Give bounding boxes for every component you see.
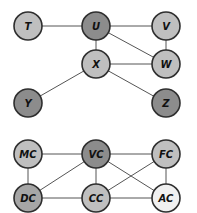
node-fc: FC	[152, 140, 180, 168]
node-label: VC	[88, 149, 104, 160]
nodes-layer: TUVXWYZMCVCFCDCCCAC	[14, 12, 180, 212]
node-x: X	[82, 50, 110, 78]
node-label: W	[160, 59, 172, 70]
node-dc: DC	[14, 184, 42, 212]
node-v: V	[152, 12, 180, 40]
node-label: AC	[158, 193, 174, 204]
node-u: U	[82, 12, 110, 40]
node-y: Y	[14, 89, 42, 117]
node-label: DC	[20, 193, 36, 204]
node-vc: VC	[82, 140, 110, 168]
node-label: FC	[159, 149, 174, 160]
node-ac: AC	[152, 184, 180, 212]
node-label: V	[162, 21, 171, 32]
node-label: U	[92, 21, 100, 32]
node-label: MC	[19, 149, 37, 160]
node-t: T	[14, 12, 42, 40]
node-label: CC	[89, 193, 104, 204]
node-mc: MC	[14, 140, 42, 168]
node-z: Z	[152, 89, 180, 117]
node-cc: CC	[82, 184, 110, 212]
node-label: T	[25, 21, 33, 32]
graph-diagram: TUVXWYZMCVCFCDCCCAC	[0, 0, 197, 213]
node-label: X	[91, 59, 101, 70]
node-label: Z	[161, 98, 170, 109]
node-w: W	[152, 50, 180, 78]
